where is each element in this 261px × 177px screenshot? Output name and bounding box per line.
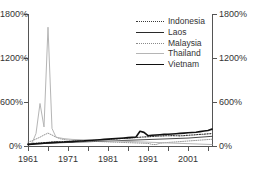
y-axis-right-tick-label: 600% (219, 98, 261, 107)
x-tick (28, 147, 29, 151)
x-tick (148, 147, 149, 151)
x-axis-tick-label: 1971 (48, 155, 88, 164)
x-tick (68, 147, 69, 151)
chart-figure: 0%600%1200%1800% 0%600%1200%1800% 196119… (0, 0, 261, 177)
legend-item-laos[interactable]: Laos (136, 28, 216, 38)
x-axis-tick-label: 1981 (88, 155, 128, 164)
y-axis-right-tick-label: 0% (219, 142, 261, 151)
x-tick (88, 147, 89, 151)
x-tick (188, 147, 189, 151)
x-tick (208, 147, 209, 151)
legend-item-malaysia[interactable]: Malaysia (136, 39, 216, 49)
x-tick (168, 147, 169, 151)
y-axis-left-tick-label: 600% (0, 98, 22, 107)
x-axis-tick-label: 1961 (8, 155, 48, 164)
x-tick (48, 147, 49, 151)
legend-swatch-laos (136, 32, 164, 33)
legend-label: Indonesia (168, 17, 205, 27)
y-tick-right (213, 102, 217, 103)
legend-label: Vietnam (168, 60, 199, 70)
y-axis-left-tick-label: 0% (0, 142, 22, 151)
x-tick (108, 147, 109, 151)
legend-item-vietnam[interactable]: Vietnam (136, 60, 216, 70)
y-axis-left-tick-label: 1800% (0, 10, 22, 19)
y-axis-left-tick-label: 1200% (0, 54, 22, 63)
x-axis-tick-label: 2001 (168, 155, 208, 164)
legend-label: Laos (168, 28, 186, 38)
y-tick-right (213, 14, 217, 15)
y-axis-right-tick-label: 1800% (219, 10, 261, 19)
x-tick (128, 147, 129, 151)
x-axis-tick-label: 1991 (128, 155, 168, 164)
y-axis-right-tick-label: 1200% (219, 54, 261, 63)
legend-item-thailand[interactable]: Thailand (136, 49, 216, 59)
legend-swatch-vietnam (136, 64, 164, 65)
legend-swatch-thailand (136, 53, 164, 54)
legend-label: Malaysia (168, 39, 202, 49)
x-axis-spine (28, 146, 213, 147)
legend-label: Thailand (168, 49, 201, 59)
y-tick-right (213, 146, 217, 147)
chart-legend: IndonesiaLaosMalaysiaThailandVietnam (136, 17, 216, 71)
legend-item-indonesia[interactable]: Indonesia (136, 17, 216, 27)
legend-swatch-indonesia (136, 21, 164, 22)
legend-swatch-malaysia (136, 43, 164, 44)
